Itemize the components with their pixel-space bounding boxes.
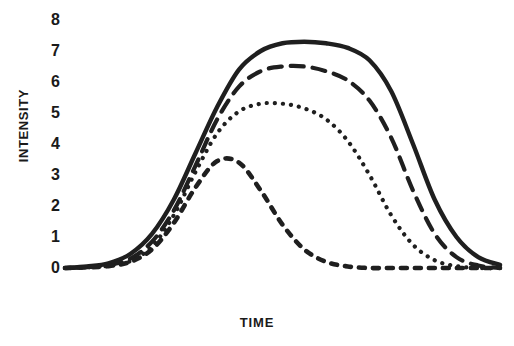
intensity-vs-time-chart: INTENSITY 876543210 TIME <box>0 0 514 346</box>
curve-1-solid <box>65 42 500 268</box>
plot-area <box>0 0 514 346</box>
x-axis-title: TIME <box>0 315 514 330</box>
curves-group <box>65 42 500 268</box>
curve-3-dotted <box>65 103 500 268</box>
curve-2-dashed <box>65 66 500 268</box>
